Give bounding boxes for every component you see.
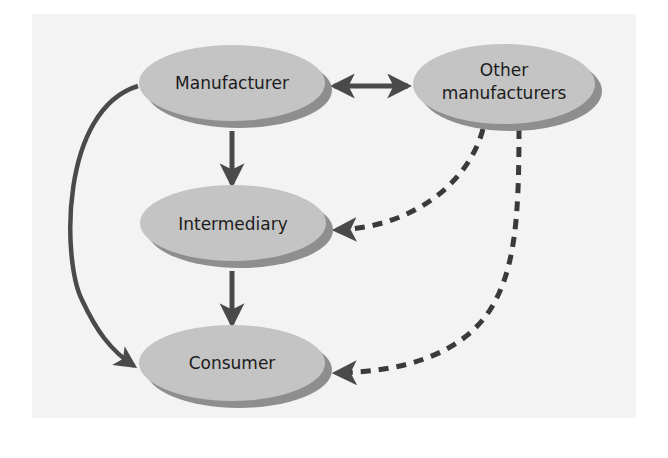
node-manufacturer: Manufacturer: [139, 45, 332, 128]
node-consumer: Consumer: [139, 325, 332, 408]
node-label-intermediary: Intermediary: [178, 214, 288, 234]
node-label-other-line2: manufacturers: [442, 83, 567, 103]
edge-manufacturer-consumer: [70, 86, 138, 366]
node-label-manufacturer: Manufacturer: [175, 73, 289, 93]
distribution-channel-diagram: Manufacturer Other manufacturers Interme…: [0, 0, 668, 458]
node-label-other-line1: Other: [480, 60, 528, 80]
node-intermediary: Intermediary: [140, 185, 333, 268]
edge-other-manufacturers-consumer: [336, 129, 519, 373]
node-label-consumer: Consumer: [189, 353, 276, 373]
node-other-manufacturers: Other manufacturers: [413, 44, 602, 131]
edge-other-manufacturers-intermediary: [336, 129, 483, 230]
